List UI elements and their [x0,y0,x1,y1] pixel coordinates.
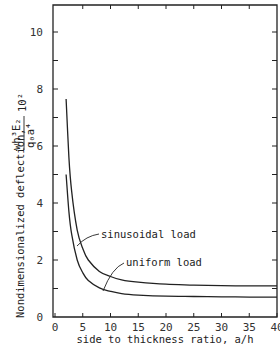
x-tick-label: 40 [270,321,280,334]
x-tick-label: 0 [52,321,59,334]
plot-frame [53,5,277,317]
curve-annotations: sinusoidal loaduniform load [77,228,202,291]
chart: 05101520253035400246810 sinusoidal loadu… [0,0,280,348]
y-axis-label-text: Nondimensionalized deflection, [14,128,26,318]
y-axis-label: Nondimensionalized deflection, [14,128,26,318]
tick-labels: 05101520253035400246810 [30,26,280,334]
y-tick-label: 8 [36,83,43,96]
y-formula-denominator: q₀a⁴ [24,123,36,148]
y-tick-label: 0 [36,311,43,324]
y-tick-label: 2 [36,254,43,267]
y-tick-label: 10 [30,26,43,39]
x-axis-label: side to thickness ratio, a/h [76,333,253,345]
y-tick-label: 6 [36,140,43,153]
axis-ticks [53,5,277,317]
sinusoidal-load-label: sinusoidal load [101,228,196,240]
y-formula-numerator: wh³E₂ [10,118,22,150]
uniform-load-label: uniform load [126,256,202,268]
y-tick-label: 4 [36,197,43,210]
plot-border [53,5,277,317]
y-formula-multiplier: 10² [16,93,28,112]
